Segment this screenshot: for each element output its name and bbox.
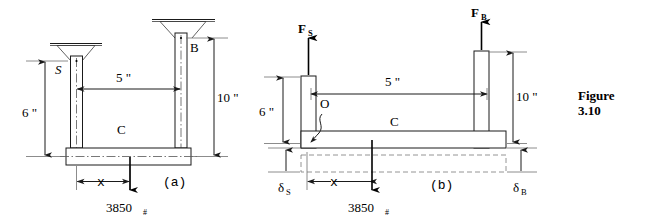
- label-6in-a: 6 ": [22, 105, 37, 120]
- label-support-b-a: B: [190, 40, 199, 55]
- label-delta-b-subscript: B: [521, 187, 527, 197]
- label-x-a: x: [97, 175, 105, 190]
- label-load-b: 3850: [348, 200, 374, 215]
- label-origin-o: O: [320, 96, 329, 111]
- dimension-10in-a: 10 ": [186, 38, 239, 157]
- label-delta-s-subscript: S: [286, 187, 291, 197]
- label-delta-s: δ: [278, 180, 284, 195]
- label-load-unit-a: #: [143, 208, 147, 217]
- label-5in-b: 5 ": [385, 74, 400, 89]
- label-5in-a: 5 ": [116, 70, 131, 85]
- dimension-x-b: x: [307, 152, 370, 190]
- label-x-b: x: [330, 175, 338, 190]
- beam-c-b: [301, 131, 506, 148]
- figure-3-10: S B C 6 " 10 " 5 ": [0, 0, 645, 223]
- panel-a-group: S B C 6 " 10 " 5 ": [22, 20, 239, 218]
- displaced-beam-outline: [301, 155, 506, 172]
- label-support-s-a: S: [55, 62, 62, 77]
- label-load-unit-b: #: [385, 208, 389, 217]
- beam-c-a: [60, 148, 197, 165]
- dimension-delta-s: δ S: [268, 148, 300, 197]
- engineering-diagram-canvas: S B C 6 " 10 " 5 ": [0, 0, 645, 223]
- dimension-5in-a: 5 ": [78, 70, 181, 89]
- label-fb: F: [471, 5, 479, 20]
- label-fs: F: [298, 21, 306, 36]
- label-10in-a: 10 ": [217, 90, 239, 105]
- dimension-5in-b: 5 ": [311, 74, 487, 100]
- force-fs-arrow: F S: [298, 21, 313, 75]
- label-beam-c-a: C: [117, 122, 126, 137]
- figure-caption-line1: Figure: [578, 88, 615, 103]
- dimension-x-a: x: [77, 166, 131, 190]
- figure-caption-line2: 3.10: [578, 103, 601, 118]
- panel-label-b: (b): [430, 178, 453, 193]
- load-arrow-b: 3850 #: [348, 140, 389, 217]
- load-arrow-a: 3850 #: [106, 157, 147, 217]
- label-fb-subscript: B: [481, 12, 487, 22]
- panel-b-group: F S F B O C 6 ": [259, 5, 538, 217]
- label-10in-b: 10 ": [516, 89, 538, 104]
- bar-left-a: [71, 56, 83, 150]
- dimension-delta-b: δ B: [507, 148, 537, 197]
- panel-label-a: (a): [163, 175, 186, 190]
- label-load-a: 3850: [106, 200, 132, 215]
- label-6in-b: 6 ": [259, 104, 274, 119]
- label-delta-b: δ: [513, 180, 519, 195]
- dimension-10in-b: 10 ": [488, 52, 538, 144]
- label-fs-subscript: S: [308, 28, 313, 38]
- label-beam-c-b: C: [390, 114, 399, 129]
- figure-caption: Figure 3.10: [578, 88, 615, 118]
- bar-right-a: [175, 33, 187, 150]
- force-fb-arrow: F B: [471, 5, 487, 50]
- dimension-6in-b: 6 ": [259, 77, 300, 144]
